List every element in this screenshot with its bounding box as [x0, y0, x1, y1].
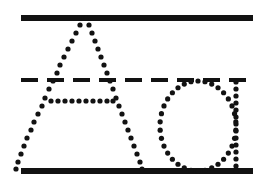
a-left-diagonal — [13, 15, 86, 171]
trace-dot — [233, 156, 238, 161]
trace-dot — [137, 159, 142, 164]
trace-dot — [39, 103, 44, 108]
trace-dot — [62, 98, 67, 103]
trace-dot — [77, 22, 82, 27]
trace-dot — [128, 135, 133, 140]
trace-dot — [233, 86, 238, 91]
o-right-stem — [233, 79, 238, 173]
trace-dot — [69, 98, 74, 103]
trace-dot — [233, 100, 238, 105]
trace-dot — [90, 98, 95, 103]
a-crossbar — [48, 98, 115, 103]
trace-dot — [233, 121, 238, 126]
trace-dot — [76, 98, 81, 103]
trace-dot — [188, 168, 193, 173]
trace-dot — [175, 85, 180, 90]
trace-dot — [48, 98, 53, 103]
trace-dot — [195, 78, 200, 83]
trace-dot — [226, 151, 231, 156]
trace-dot — [65, 46, 70, 51]
trace-dot — [202, 168, 207, 173]
trace-dot — [125, 127, 130, 132]
trace-dot — [159, 111, 164, 116]
trace-dot — [165, 151, 170, 156]
trace-dot — [233, 93, 238, 98]
trace-dot — [170, 90, 175, 95]
trace-dot — [107, 78, 112, 83]
trace-dot — [110, 98, 115, 103]
trace-dot — [104, 98, 109, 103]
trace-dot — [221, 157, 226, 162]
letter-o — [158, 78, 239, 173]
trace-dot — [55, 98, 60, 103]
trace-dot — [233, 79, 238, 84]
trace-dot — [175, 162, 180, 167]
trace-dot — [209, 165, 214, 170]
trace-dot — [202, 79, 207, 84]
letter-a — [13, 15, 144, 171]
trace-dot — [92, 38, 97, 43]
trace-dot — [215, 162, 220, 167]
trace-dot — [50, 78, 55, 83]
trace-dot — [83, 15, 88, 20]
trace-dot — [233, 142, 238, 147]
trace-dot — [182, 165, 187, 170]
trace-dot — [13, 166, 18, 171]
trace-dot — [95, 46, 100, 51]
a-right-diagonal — [83, 15, 144, 171]
trace-dot — [158, 128, 163, 133]
trace-dot — [134, 151, 139, 156]
trace-dot — [104, 70, 109, 75]
o-bowl — [158, 78, 239, 173]
guide-lines-group — [21, 18, 253, 171]
trace-dot — [233, 149, 238, 154]
trace-dot — [233, 107, 238, 112]
trace-dot — [97, 98, 102, 103]
trace-dot — [233, 114, 238, 119]
trace-dot — [209, 81, 214, 86]
trace-dot — [116, 103, 121, 108]
trace-dot — [170, 157, 175, 162]
trace-dot — [221, 90, 226, 95]
trace-dot — [101, 62, 106, 67]
trace-dot — [24, 135, 29, 140]
trace-dot — [61, 54, 66, 59]
trace-dot — [21, 143, 26, 148]
trace-dot — [31, 119, 36, 124]
trace-dot — [42, 95, 47, 100]
trace-dot — [233, 135, 238, 140]
trace-dot — [139, 166, 144, 171]
trace-dot — [159, 136, 164, 141]
trace-dot — [57, 62, 62, 67]
trace-dot — [35, 111, 40, 116]
trace-dot — [182, 81, 187, 86]
trace-dot — [89, 30, 94, 35]
trace-dot — [131, 143, 136, 148]
trace-dot — [233, 168, 238, 173]
trace-dot — [165, 96, 170, 101]
trace-dot — [28, 127, 33, 132]
trace-dot — [15, 159, 20, 164]
trace-dot — [233, 128, 238, 133]
trace-dot — [233, 163, 238, 168]
trace-dot — [226, 96, 231, 101]
trace-dot — [18, 151, 23, 156]
trace-dot — [188, 79, 193, 84]
trace-dot — [86, 22, 91, 27]
trace-dot — [161, 143, 166, 148]
trace-dot — [158, 119, 163, 124]
trace-dot — [119, 111, 124, 116]
trace-dot — [195, 168, 200, 173]
trace-dot — [161, 103, 166, 108]
trace-dot — [110, 86, 115, 91]
trace-dot — [122, 119, 127, 124]
trace-dot — [73, 30, 78, 35]
trace-dot — [215, 85, 220, 90]
trace-dot — [46, 86, 51, 91]
trace-dot — [54, 70, 59, 75]
trace-dot — [98, 54, 103, 59]
tracing-worksheet — [0, 0, 273, 194]
trace-dot — [69, 38, 74, 43]
worksheet-canvas — [0, 0, 273, 194]
trace-dot — [83, 98, 88, 103]
